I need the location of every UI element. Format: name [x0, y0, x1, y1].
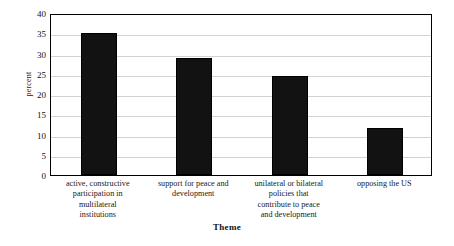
bar: [272, 76, 308, 175]
x-axis-tick-label-line: contribute to peace: [241, 200, 337, 210]
x-axis-tick-label-line: policies that: [241, 189, 337, 199]
x-axis-tick-label: unilateral or bilateralpolicies thatcont…: [241, 179, 337, 221]
x-axis-tick-labels: active, constructiveparticipation inmult…: [50, 179, 432, 227]
bar-chart-figure: percent 0510152025303540 active, constru…: [0, 0, 454, 246]
y-axis-tick-label: 30: [24, 50, 46, 60]
bar: [367, 128, 403, 175]
y-axis-tick-label: 10: [24, 131, 46, 141]
bars-layer: [51, 15, 431, 175]
x-axis-tick-label-line: multilateral: [50, 200, 146, 210]
y-axis-tick-labels: 0510152025303540: [24, 9, 46, 181]
y-axis-tick-label: 40: [24, 9, 46, 19]
y-axis-tick-label: 5: [24, 151, 46, 161]
y-axis-tick-label: 15: [24, 110, 46, 120]
bar: [81, 33, 117, 175]
x-axis-tick-label-line: development: [146, 189, 242, 199]
x-axis-title: Theme: [0, 222, 454, 232]
x-axis-tick-label-line: opposing the US: [337, 179, 433, 189]
x-axis-tick-label-line: unilateral or bilateral: [241, 179, 337, 189]
y-axis-tick-label: 35: [24, 29, 46, 39]
x-axis-tick-label: opposing the US: [337, 179, 433, 189]
x-axis-tick-label-line: institutions: [50, 210, 146, 220]
x-axis-tick-label: active, constructiveparticipation inmult…: [50, 179, 146, 221]
plot-area: [50, 14, 432, 176]
x-axis-tick-label-line: support for peace and: [146, 179, 242, 189]
x-axis-tick-label-line: active, constructive: [50, 179, 146, 189]
x-axis-tick-label-line: participation in: [50, 189, 146, 199]
y-axis-tick-label: 0: [24, 171, 46, 181]
y-axis-tick-label: 25: [24, 70, 46, 80]
bar: [176, 58, 212, 175]
y-axis-tick-label: 20: [24, 90, 46, 100]
x-axis-tick-label: support for peace anddevelopment: [146, 179, 242, 200]
x-axis-tick-label-line: and development: [241, 210, 337, 220]
